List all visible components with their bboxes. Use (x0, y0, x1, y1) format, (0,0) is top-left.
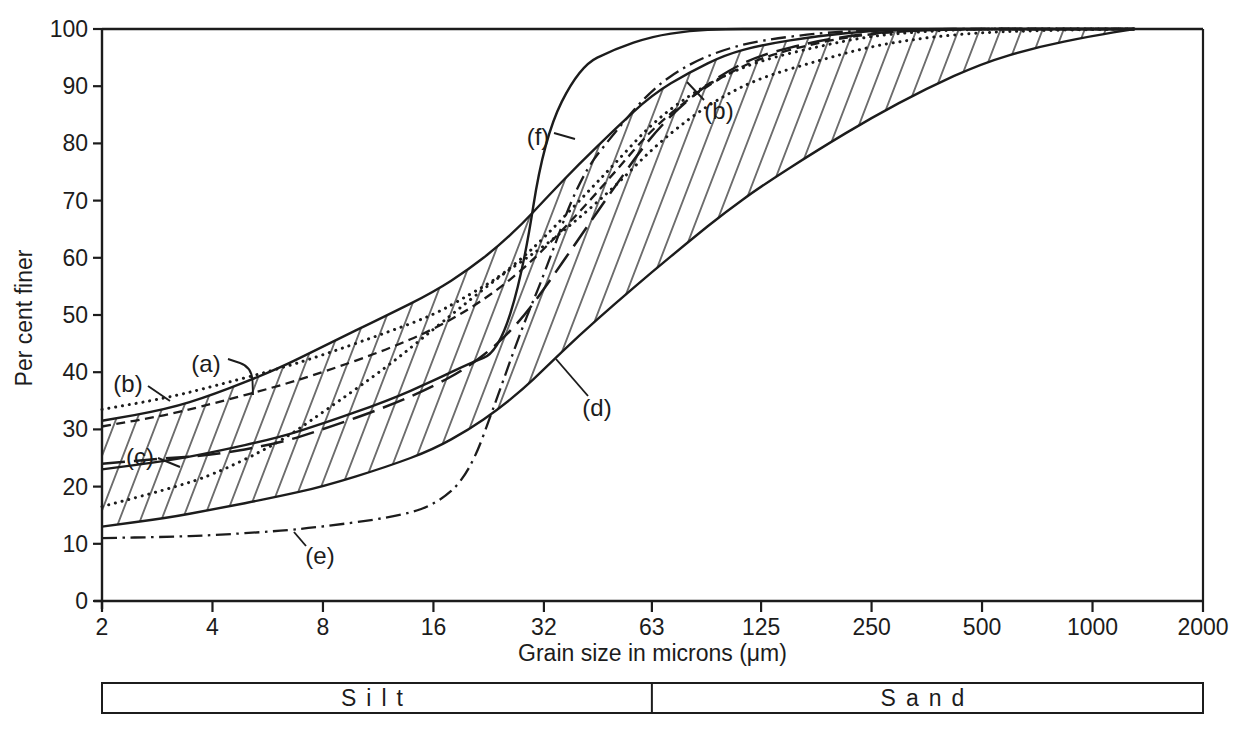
y-tick-label: 50 (62, 302, 88, 328)
x-tick-label: 125 (742, 614, 780, 640)
silt-label: Silt (341, 685, 413, 711)
x-tick-label: 8 (317, 614, 330, 640)
curve-label: (a) (191, 350, 220, 377)
x-tick-label: 500 (963, 614, 1001, 640)
x-axis-title: Grain size in microns (μm) (518, 640, 787, 666)
x-tick-label: 1000 (1067, 614, 1118, 640)
y-tick-label: 100 (50, 16, 88, 42)
curve-label: (d) (582, 394, 611, 421)
y-tick-label: 30 (62, 416, 88, 442)
y-tick-label: 80 (62, 130, 88, 156)
y-tick-label: 90 (62, 73, 88, 99)
curve-label: (b) (704, 97, 733, 124)
grain-size-figure: 0102030405060708090100248163263125250500… (0, 0, 1246, 739)
y-tick-label: 40 (62, 359, 88, 385)
y-tick-label: 60 (62, 245, 88, 271)
y-axis-title: Per cent finer (11, 249, 37, 386)
figure-background (0, 0, 1246, 739)
x-tick-label: 250 (852, 614, 890, 640)
curve-label: (e) (305, 542, 334, 569)
y-tick-label: 0 (75, 588, 88, 614)
x-tick-label: 2000 (1177, 614, 1228, 640)
curve-label: (b) (113, 370, 142, 397)
y-tick-label: 10 (62, 531, 88, 557)
sand-label: Sand (881, 685, 975, 711)
x-tick-label: 32 (531, 614, 557, 640)
x-tick-label: 2 (96, 614, 109, 640)
x-tick-label: 16 (421, 614, 447, 640)
x-tick-label: 63 (639, 614, 665, 640)
curve-label: (c) (126, 443, 154, 470)
curve-label: (f) (527, 123, 550, 150)
y-tick-label: 20 (62, 474, 88, 500)
grain-size-chart-svg: 0102030405060708090100248163263125250500… (0, 0, 1246, 739)
x-tick-label: 4 (206, 614, 219, 640)
y-tick-label: 70 (62, 188, 88, 214)
